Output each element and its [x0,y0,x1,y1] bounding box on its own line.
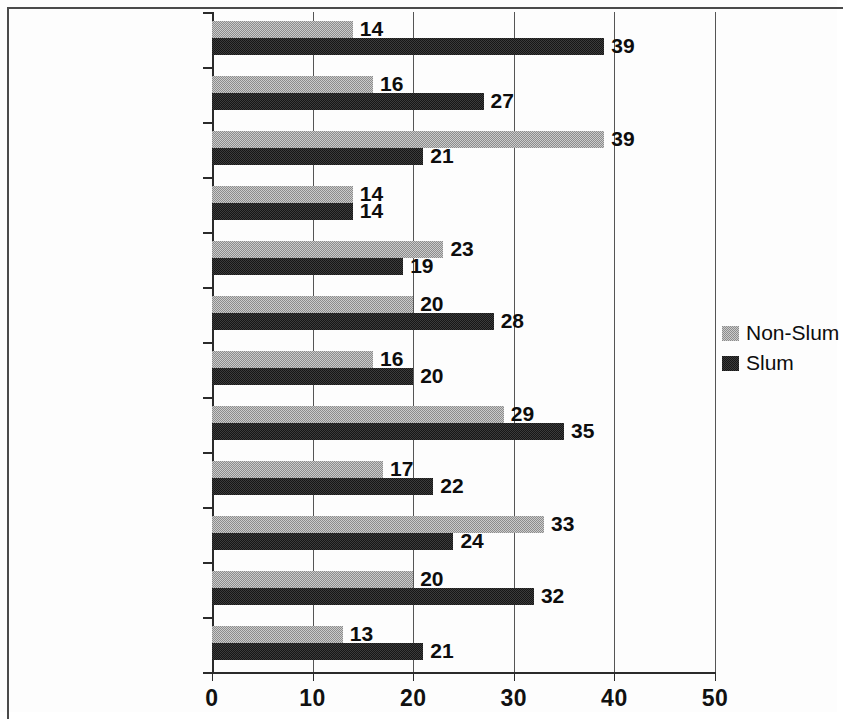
bar-nonslum [212,406,504,423]
legend-item: Slum [722,348,847,378]
y-tick-1 [203,67,212,69]
x-tick-50 [715,672,716,681]
bar-slum [212,588,534,605]
x-tick-label-20: 20 [400,685,427,712]
x-tick-label-30: 30 [501,685,528,712]
data-label: 23 [450,240,473,257]
chart-legend: Non-SlumSlum [722,318,847,378]
y-tick-5 [203,287,212,289]
x-tick-10 [313,672,314,681]
bar-slum [212,478,433,495]
bar-slum [212,148,423,165]
bar-nonslum [212,131,604,148]
legend-label: Non-Slum [746,321,839,345]
x-tick-label-10: 10 [299,685,326,712]
data-label: 28 [501,312,524,329]
bar-group: Philippines1321 [212,617,715,672]
data-label: 27 [491,92,514,109]
y-tick-4 [203,232,212,234]
data-label: 20 [420,367,443,384]
legend-swatch-slum [722,356,739,371]
bar-nonslum [212,186,353,203]
legend-label: Slum [746,351,794,375]
x-tick-label-0: 0 [205,685,218,712]
data-label: 32 [541,587,564,604]
bar-group: Zambia2319 [212,232,715,287]
legend-swatch-nonslum [722,326,739,341]
bar-slum [212,368,413,385]
bar-nonslum [212,626,343,643]
data-label: 13 [350,625,373,642]
bar-group: Mozambique1439 [212,12,715,67]
bar-nonslum [212,296,413,313]
plot-area: 01020304050 Mozambique1439Nigeria1627Sou… [212,12,715,672]
x-tick-30 [514,672,515,681]
data-label: 33 [551,515,574,532]
data-label: 29 [511,405,534,422]
data-label: 20 [420,570,443,587]
bar-nonslum [212,76,373,93]
y-tick-8 [203,452,212,454]
data-label: 21 [430,642,453,659]
data-label: 22 [440,477,463,494]
bar-group: Dominican Republic2935 [212,397,715,452]
bar-group: Bolivia2028 [212,287,715,342]
data-label: 20 [420,295,443,312]
bar-slum [212,533,453,550]
bar-group: Uganda1414 [212,177,715,232]
bar-group: Kyrgyzstan2032 [212,562,715,617]
data-label: 24 [460,532,483,549]
y-tick-6 [203,342,212,344]
data-label: 39 [611,37,634,54]
bar-slum [212,203,353,220]
bar-nonslum [212,21,353,38]
data-label: 16 [380,350,403,367]
bar-group: Indonesia3324 [212,507,715,562]
x-tick-0 [212,672,213,681]
y-tick-9 [203,507,212,509]
data-label: 35 [571,422,594,439]
data-label: 17 [390,460,413,477]
bar-group: Colombia1620 [212,342,715,397]
bar-slum [212,93,484,110]
bar-slum [212,313,494,330]
data-label: 21 [430,147,453,164]
y-tick-2 [203,122,212,124]
bar-slum [212,258,403,275]
data-label: 14 [360,202,383,219]
data-label: 16 [380,75,403,92]
x-tick-label-50: 50 [702,685,729,712]
x-tick-label-40: 40 [601,685,628,712]
data-label: 39 [611,130,634,147]
data-label: 14 [360,20,383,37]
y-tick-0 [203,12,212,14]
bar-nonslum [212,461,383,478]
y-tick-3 [203,177,212,179]
bar-nonslum [212,241,443,258]
y-tick-11 [203,617,212,619]
bar-group: Nigeria1627 [212,67,715,122]
bar-slum [212,38,604,55]
bar-nonslum [212,516,544,533]
bar-slum [212,423,564,440]
data-label: 19 [410,257,433,274]
y-tick-10 [203,562,212,564]
y-tick-12 [203,672,212,674]
legend-item: Non-Slum [722,318,847,348]
bar-group: South Africa3921 [212,122,715,177]
bar-group: Peru1722 [212,452,715,507]
x-tick-20 [413,672,414,681]
x-tick-40 [614,672,615,681]
bar-nonslum [212,351,373,368]
gridline-50 [715,12,716,672]
x-axis-line [212,672,716,674]
y-tick-7 [203,397,212,399]
bar-slum [212,643,423,660]
bar-nonslum [212,571,413,588]
